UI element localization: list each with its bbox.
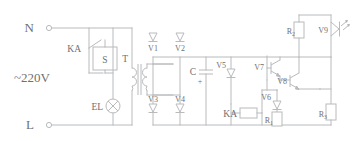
resistor-r2-body — [294, 22, 304, 38]
v8-emitter-arrow — [296, 86, 300, 90]
transformer-primary-winding — [132, 68, 137, 91]
resistor-r1-body — [272, 112, 282, 126]
live-terminal-node — [46, 122, 51, 127]
diode-v5-label: V5 — [216, 61, 226, 70]
supply-voltage-label: ~220V — [14, 70, 51, 85]
transformer-label: T — [122, 54, 128, 64]
v7-emitter-arrow — [277, 73, 281, 77]
relay-coil-label: KA — [223, 109, 237, 119]
transformer-secondary-winding — [143, 68, 148, 91]
led-v9-triangle — [331, 22, 339, 36]
neutral-terminal-label: N — [25, 20, 35, 35]
capacitor-label: C — [190, 67, 196, 77]
diode-v4-triangle — [176, 104, 184, 112]
diode-v4-label: V4 — [175, 95, 185, 104]
diode-v6-triangle — [273, 101, 281, 109]
diode-v3-triangle — [149, 104, 157, 112]
switch-label: S — [102, 55, 107, 65]
diode-v3-label: V3 — [148, 95, 158, 104]
led-v9-label: V9 — [318, 26, 328, 35]
relay-coil-body — [240, 108, 257, 118]
live-terminal-label: L — [26, 117, 34, 132]
relay-contact-label: KA — [67, 44, 81, 54]
diode-v1-label: V1 — [148, 44, 158, 53]
neutral-terminal-node — [46, 25, 51, 30]
v8-collector-lead — [290, 73, 299, 78]
led-v9-ray-1-head — [346, 20, 348, 22]
transistor-v8-label: V8 — [277, 77, 287, 86]
diode-v6-label: V6 — [261, 93, 271, 102]
diode-v2-triangle — [176, 33, 184, 41]
led-v9-ray-2-head — [348, 24, 350, 26]
diode-v5-triangle — [227, 69, 235, 77]
diode-v2-label: V2 — [175, 44, 185, 53]
resistor-r3-body — [326, 104, 336, 120]
lamp-label: EL — [91, 102, 103, 112]
transistor-v7-label: V7 — [254, 63, 264, 72]
resistor-r2-subscript: 2 — [292, 31, 295, 37]
circuit-diagram-canvas: N L ~220V KA S EL T V1 V2 V3 V4 C + V5 K… — [0, 0, 355, 141]
v7-collector-lead — [271, 60, 280, 65]
schematic-svg: N L ~220V KA S EL T V1 V2 V3 V4 C + V5 K… — [0, 0, 355, 141]
resistor-r1-subscript: 1 — [270, 120, 273, 126]
resistor-r3-subscript: 3 — [324, 114, 327, 120]
capacitor-polarity-label: + — [198, 77, 203, 86]
diode-v1-triangle — [149, 33, 157, 41]
